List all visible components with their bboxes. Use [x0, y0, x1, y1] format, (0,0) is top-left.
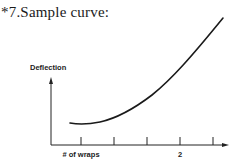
y-axis-arrow-icon	[49, 77, 53, 84]
sample-curve	[70, 18, 223, 124]
plot-area	[0, 0, 235, 166]
x-ticks	[81, 137, 213, 145]
x-axis-arrow-icon	[222, 143, 229, 147]
